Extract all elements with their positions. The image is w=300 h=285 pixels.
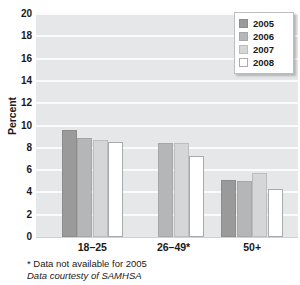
bar-chart: Percent 02468101214161820 20052006200720… — [0, 0, 300, 285]
y-axis-tick-label: 8 — [2, 143, 32, 153]
bar — [174, 143, 189, 237]
x-axis-tick-label: 18–25 — [47, 241, 137, 254]
y-axis-tick-label: 2 — [2, 210, 32, 220]
x-axis-tick-labels: 18–2526–49*50+ — [36, 241, 298, 257]
y-axis-tick-labels: 02468101214161820 — [0, 0, 34, 250]
y-axis-tick-label: 12 — [2, 98, 32, 108]
x-axis-baseline — [36, 237, 298, 238]
x-axis-tick-label: 50+ — [207, 241, 297, 254]
bar — [93, 140, 108, 237]
bar — [62, 130, 77, 237]
legend-swatch-icon — [239, 32, 248, 41]
y-axis-tick-label: 10 — [2, 121, 32, 131]
legend-item-label: 2005 — [253, 19, 274, 29]
bar — [237, 181, 252, 237]
bar — [268, 189, 283, 238]
y-axis-tick-label: 20 — [2, 9, 32, 19]
y-axis-tick-label: 18 — [2, 31, 32, 41]
y-axis-tick-label: 4 — [2, 187, 32, 197]
legend-item: 2006 — [239, 30, 289, 43]
x-axis-tick-label: 26–49* — [129, 241, 219, 254]
chart-legend: 2005200620072008 — [234, 12, 294, 74]
footnote-source: Data courtesty of SAMHSA — [27, 270, 287, 282]
legend-swatch-icon — [239, 58, 248, 67]
y-axis-tick-label: 14 — [2, 76, 32, 86]
footnote-asterisk: * Data not available for 2005 — [27, 258, 287, 270]
legend-item: 2005 — [239, 17, 289, 30]
y-axis-tick-label: 0 — [2, 232, 32, 242]
legend-swatch-icon — [239, 19, 248, 28]
bar — [77, 138, 92, 237]
bar — [189, 156, 204, 237]
legend-item-label: 2007 — [253, 45, 274, 55]
chart-notes: * Data not available for 2005 Data court… — [27, 258, 287, 282]
legend-item-label: 2006 — [253, 32, 274, 42]
bar-group — [143, 14, 205, 237]
legend-item-label: 2008 — [253, 58, 274, 68]
bar — [108, 142, 123, 237]
bar — [221, 180, 236, 237]
bar-group — [62, 14, 124, 237]
legend-item: 2007 — [239, 43, 289, 56]
legend-swatch-icon — [239, 45, 248, 54]
y-axis-tick-label: 16 — [2, 54, 32, 64]
bar — [158, 143, 173, 237]
legend-item: 2008 — [239, 56, 289, 69]
bar — [252, 173, 267, 237]
y-axis-tick-label: 6 — [2, 165, 32, 175]
